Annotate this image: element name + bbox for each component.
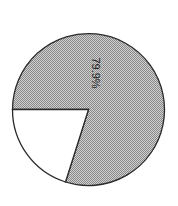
pie-chart: 79.9% — [0, 0, 178, 206]
slice-label-large: 79.9% — [90, 57, 102, 88]
